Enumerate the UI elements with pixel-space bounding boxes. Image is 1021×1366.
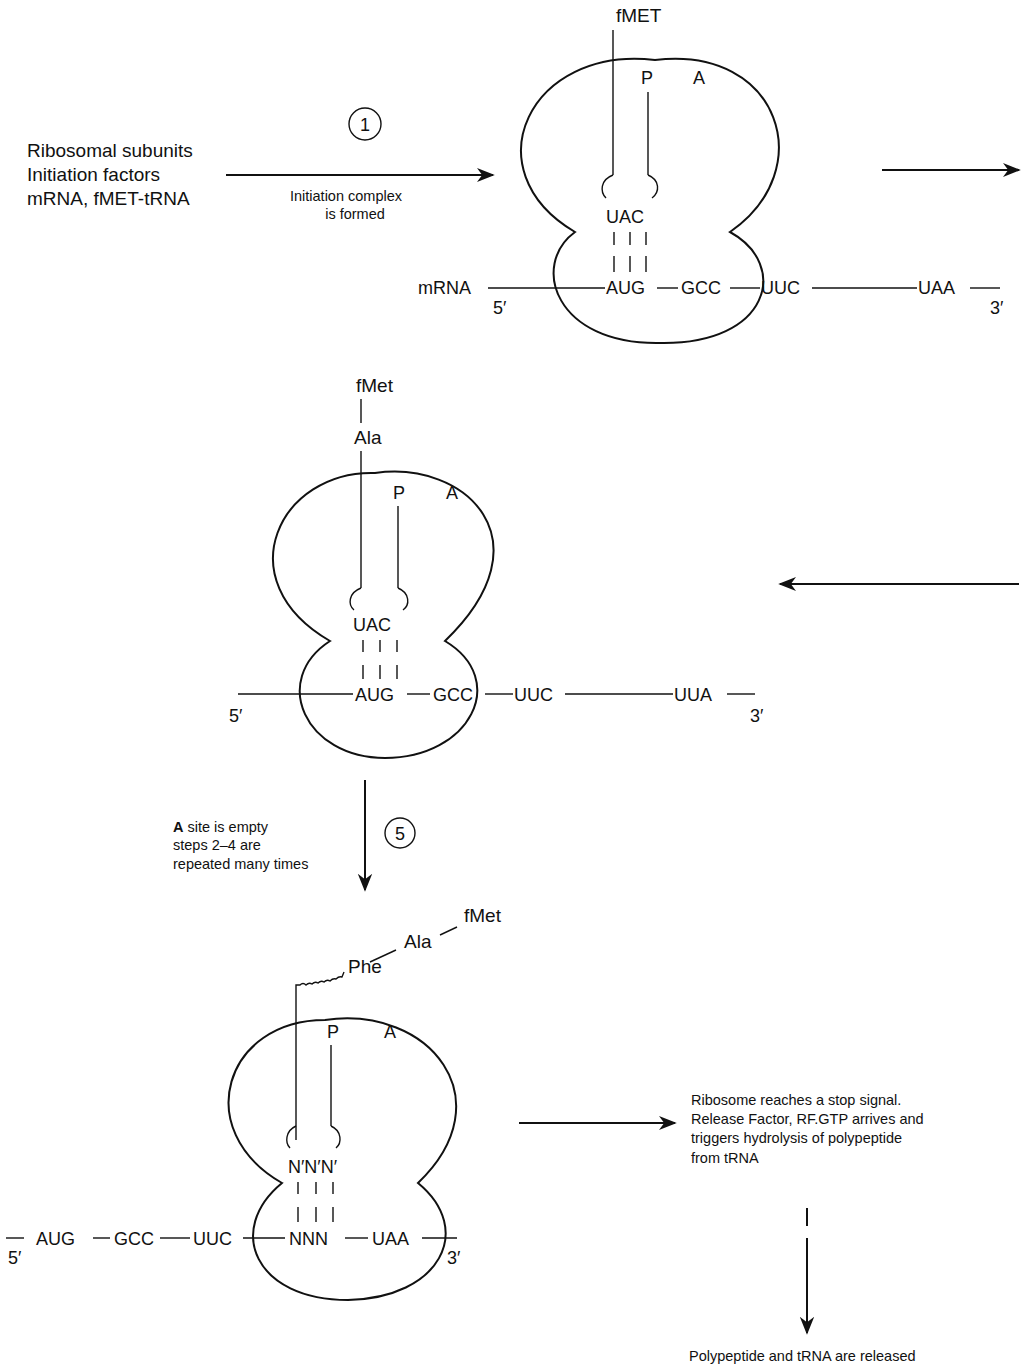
caption-line3: repeated many times <box>173 856 308 872</box>
caption-line4: from tRNA <box>691 1150 759 1166</box>
ribosome-outline-icon <box>521 59 779 343</box>
codon: GCC <box>681 278 721 298</box>
step1-marker: 1 <box>349 108 381 140</box>
termination-caption: Ribosome reaches a stop signal. Release … <box>691 1092 924 1166</box>
codon: UUC <box>514 685 553 705</box>
input-initiation-factors: Initiation factors <box>27 164 160 185</box>
anticodon: UAC <box>353 615 391 635</box>
codon: GCC <box>114 1229 154 1249</box>
codon: AUG <box>355 685 394 705</box>
three-prime-label: 3′ <box>447 1248 461 1268</box>
site-a-label: A <box>384 1022 396 1042</box>
codon: UUA <box>674 685 712 705</box>
translation-diagram: Ribosomal subunits Initiation factors mR… <box>0 0 1021 1366</box>
caption-line1: Ribosome reaches a stop signal. <box>691 1092 901 1108</box>
codon: GCC <box>433 685 473 705</box>
five-prime-label: 5′ <box>8 1248 22 1268</box>
codon: UUC <box>193 1229 232 1249</box>
ribosome-termination: fMet Ala Phe P A N′N′N′ AUG GCC UUC NNN … <box>6 905 502 1300</box>
codon: AUG <box>606 278 645 298</box>
peptide-phe: Phe <box>348 956 382 977</box>
three-prime-label: 3′ <box>990 298 1004 318</box>
caption-line2: steps 2–4 are <box>173 837 261 853</box>
site-p-label: P <box>393 483 405 503</box>
five-prime-label: 5′ <box>229 706 243 726</box>
site-p-label: P <box>327 1022 339 1042</box>
anticodon: N′N′N′ <box>288 1157 338 1177</box>
mrna-label: mRNA <box>418 278 471 298</box>
stage1-inputs: Ribosomal subunits Initiation factors mR… <box>27 140 193 209</box>
peptide-ala: Ala <box>354 427 382 448</box>
step-number: 1 <box>360 115 370 135</box>
five-prime-label: 5′ <box>493 298 507 318</box>
input-mrna-fmet-trna: mRNA, fMET-tRNA <box>27 188 190 209</box>
peptide-label: fMET <box>616 5 662 26</box>
caption-line3: triggers hydrolysis of polypeptide <box>691 1130 902 1146</box>
site-a-label: A <box>446 483 458 503</box>
peptide-fmet: fMet <box>464 905 502 926</box>
ribosome-elongation: fMet Ala P A UAC AUG GCC UUC UUA 5′ 3′ <box>229 375 764 758</box>
codon: UAA <box>918 278 955 298</box>
codon: UUC <box>761 278 800 298</box>
three-prime-label: 3′ <box>750 706 764 726</box>
arrow-caption-line1: Initiation complex <box>290 188 403 204</box>
caption-line1: A site is empty <box>173 819 269 835</box>
site-p-label: P <box>641 68 653 88</box>
site-a-label: A <box>693 68 705 88</box>
result-text: Polypeptide and tRNA are released <box>689 1348 916 1364</box>
peptide-ala: Ala <box>404 931 432 952</box>
step5-marker: 5 <box>385 818 415 848</box>
caption-line2: Release Factor, RF.GTP arrives and <box>691 1111 924 1127</box>
codon: NNN <box>289 1229 328 1249</box>
ribosome-initiation-complex: fMET P A UAC mRNA AUG GCC UUC UAA 5′ 3′ <box>418 5 1004 343</box>
anticodon: UAC <box>606 207 644 227</box>
arrow-caption-line2: is formed <box>325 206 385 222</box>
codon: UAA <box>372 1229 409 1249</box>
ribosome-outline-icon <box>229 1018 457 1300</box>
peptide-fmet: fMet <box>356 375 394 396</box>
step-number: 5 <box>395 824 405 844</box>
codon: AUG <box>36 1229 75 1249</box>
input-ribosomal-subunits: Ribosomal subunits <box>27 140 193 161</box>
step5-caption: A site is empty steps 2–4 are repeated m… <box>173 819 308 872</box>
